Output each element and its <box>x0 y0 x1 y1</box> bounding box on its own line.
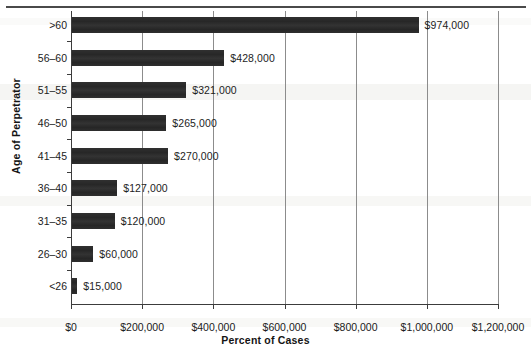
bar <box>72 180 117 196</box>
x-axis-tick <box>498 304 499 309</box>
y-axis-tick-label: <26 <box>7 280 67 292</box>
y-axis-tick-label: 26–30 <box>7 248 67 260</box>
x-axis-tick-label: $800,000 <box>334 321 378 333</box>
x-axis-title: Percent of Cases <box>0 334 531 346</box>
bar-value-label: $127,000 <box>123 182 168 194</box>
y-axis-tick <box>67 139 71 140</box>
plot-area: $974,000$428,000$321,000$265,000$270,000… <box>71 11 498 305</box>
bar <box>72 82 186 98</box>
x-axis-tick <box>285 304 286 309</box>
bar-value-label: $60,000 <box>99 248 138 260</box>
y-axis-tick <box>67 107 71 108</box>
gridline <box>498 11 499 305</box>
figure-top-rule <box>6 6 526 8</box>
x-axis-tick-labels: $0$200,000$400,000$600,000$800,000$1,000… <box>71 11 498 51</box>
y-axis-tick <box>67 270 71 271</box>
y-axis-tick-label: 46–50 <box>7 117 67 129</box>
y-axis-tick-label: >60 <box>7 19 67 31</box>
chart-figure: Age of Perpetrator >6056–6051–5546–5041–… <box>0 0 531 351</box>
bar <box>72 115 166 131</box>
bar-value-label: $15,000 <box>83 280 122 292</box>
x-axis-tick-label: $200,000 <box>120 321 164 333</box>
y-axis-tick-label: 56–60 <box>7 52 67 64</box>
bar <box>72 246 93 262</box>
x-axis-tick <box>356 304 357 309</box>
bar-value-label: $428,000 <box>230 52 275 64</box>
y-axis-tick-label: 31–35 <box>7 215 67 227</box>
y-axis-tick-label: 51–55 <box>7 84 67 96</box>
gridline <box>356 11 357 305</box>
y-axis-tick-labels: >6056–6051–5546–5041–4536–4031–3526–30<2… <box>5 11 67 305</box>
bar <box>72 50 224 66</box>
x-axis-tick <box>71 304 72 309</box>
x-axis-tick-label: $1,000,000 <box>401 321 454 333</box>
y-axis-tick-label: 36–40 <box>7 182 67 194</box>
x-axis-tick-label: $400,000 <box>191 321 235 333</box>
x-axis-tick-label: $600,000 <box>263 321 307 333</box>
y-axis-tick <box>67 172 71 173</box>
bar <box>72 278 77 294</box>
bar <box>72 213 115 229</box>
bar <box>72 148 168 164</box>
x-axis-tick <box>213 304 214 309</box>
y-axis-tick <box>67 74 71 75</box>
bar-value-label: $120,000 <box>121 215 166 227</box>
y-axis-tick <box>67 237 71 238</box>
gridline <box>427 11 428 305</box>
x-axis-tick-label: $0 <box>65 321 77 333</box>
y-axis-tick <box>67 205 71 206</box>
bar-value-label: $321,000 <box>192 84 237 96</box>
x-axis-tick <box>427 304 428 309</box>
bar-value-label: $270,000 <box>174 150 219 162</box>
x-axis-tick-label: $1,200,000 <box>472 321 525 333</box>
bar-value-label: $265,000 <box>172 117 217 129</box>
gridline <box>285 11 286 305</box>
y-axis-tick-label: 41–45 <box>7 150 67 162</box>
x-axis-tick <box>142 304 143 309</box>
